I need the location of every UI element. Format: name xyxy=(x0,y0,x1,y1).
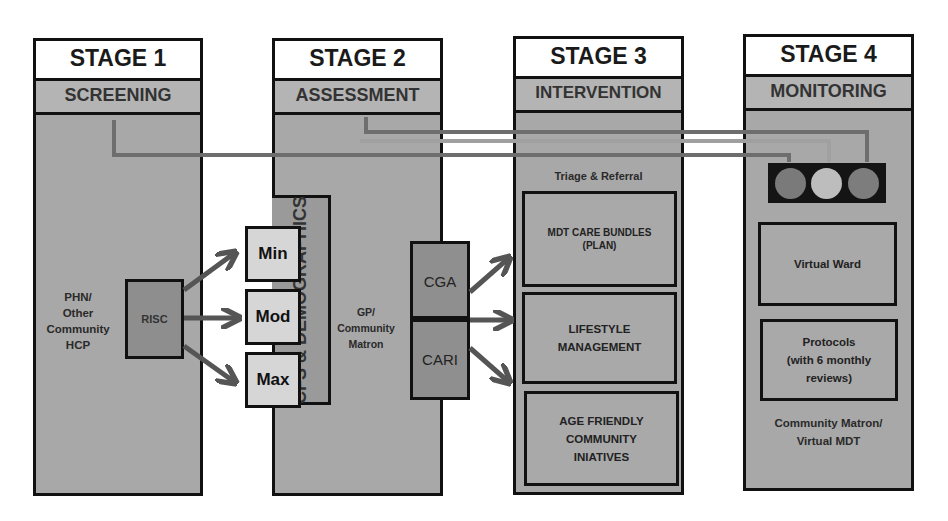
arrow-risc-max xyxy=(184,346,236,383)
connectors-layer xyxy=(0,0,948,521)
arrow-risc-min xyxy=(184,252,236,290)
assessment-monitor-line-gray xyxy=(360,141,829,162)
arrow-to-care-bundles xyxy=(470,257,510,292)
arrow-to-age-friendly xyxy=(470,348,510,383)
